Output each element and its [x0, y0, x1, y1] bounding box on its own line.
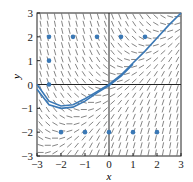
slope-field-chart: −3−2−10123−3−2−10123xy	[0, 0, 193, 182]
svg-text:1: 1	[130, 158, 136, 170]
svg-text:3: 3	[28, 7, 34, 19]
svg-text:3: 3	[178, 158, 184, 170]
svg-text:−2: −2	[21, 126, 33, 138]
svg-text:−3: −3	[21, 150, 33, 162]
plot-svg: −3−2−10123−3−2−10123xy	[0, 0, 193, 182]
svg-text:2: 2	[28, 31, 34, 43]
svg-text:−1: −1	[21, 102, 33, 114]
svg-text:y: y	[10, 74, 22, 80]
svg-text:0: 0	[28, 79, 34, 91]
svg-text:−2: −2	[55, 158, 67, 170]
svg-text:1: 1	[28, 55, 34, 67]
svg-text:0: 0	[106, 158, 112, 170]
svg-text:x: x	[106, 170, 112, 182]
svg-text:−1: −1	[79, 158, 91, 170]
svg-text:2: 2	[154, 158, 160, 170]
